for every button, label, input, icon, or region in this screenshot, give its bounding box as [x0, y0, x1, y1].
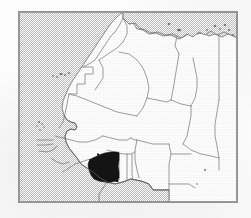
africa-locator-map — [19, 12, 237, 202]
map-frame — [18, 11, 238, 203]
